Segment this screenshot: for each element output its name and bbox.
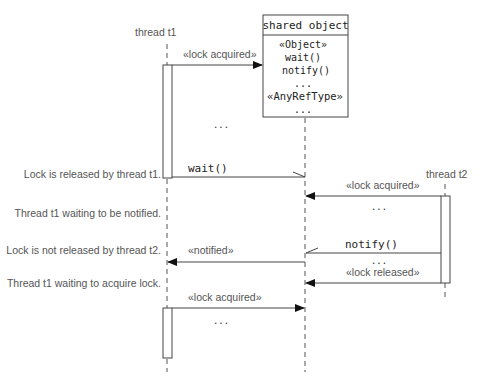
shared-object-title: shared object (262, 19, 348, 32)
message-label: «lock acquired» (346, 179, 420, 191)
lifeline-label-t2: thread t2 (426, 168, 468, 180)
ellipsis: ... (214, 313, 230, 327)
message-lock-acquired-t1: «lock acquired» (172, 48, 262, 65)
ellipsis: ... (372, 253, 388, 267)
activation-bar-t1-1 (163, 65, 172, 178)
message-wait: wait() (172, 162, 305, 177)
lifeline-label-t1: thread t1 (135, 26, 177, 38)
member-anyreftype: «AnyRefType» (267, 90, 343, 102)
lifeline-thread-t2: thread t2 (426, 168, 468, 300)
sequence-diagram: thread t1 shared object «Object» wait() … (0, 0, 482, 384)
message-notified: «notified» (168, 244, 305, 262)
member-ellipsis-2: ... (294, 104, 312, 115)
annotation-t1-waiting-acquire: Thread t1 waiting to acquire lock. (7, 277, 161, 289)
message-label: «lock released» (346, 266, 420, 278)
activation-bar-t1-2 (163, 308, 172, 358)
ellipsis: ... (372, 199, 388, 213)
activation-bar-t2 (441, 196, 450, 283)
message-label: «notified» (188, 244, 234, 256)
member-ellipsis-1: ... (294, 78, 312, 89)
lifeline-shared-object: shared object «Object» wait() notify() .… (262, 15, 348, 372)
message-lock-acquired-t1-again: «lock acquired» (172, 291, 304, 308)
message-notify: notify() (306, 238, 441, 253)
message-label: wait() (188, 162, 228, 175)
message-label: «lock acquired» (188, 291, 262, 303)
member-object: «Object» (279, 39, 327, 50)
lifeline-thread-t1: thread t1 (135, 26, 177, 372)
member-wait: wait() (285, 52, 321, 63)
message-lock-released: «lock released» (306, 266, 441, 283)
annotation-lock-not-released-t2: Lock is not released by thread t2. (6, 244, 161, 256)
annotation-t1-waiting-notify: Thread t1 waiting to be notified. (14, 207, 161, 219)
member-notify: notify() (282, 65, 330, 76)
annotation-lock-released-t1: Lock is released by thread t1. (24, 168, 161, 180)
ellipsis: ... (214, 117, 230, 131)
message-lock-acquired-t2: «lock acquired» (306, 179, 441, 196)
message-label: notify() (345, 238, 398, 251)
message-label: «lock acquired» (183, 48, 257, 60)
